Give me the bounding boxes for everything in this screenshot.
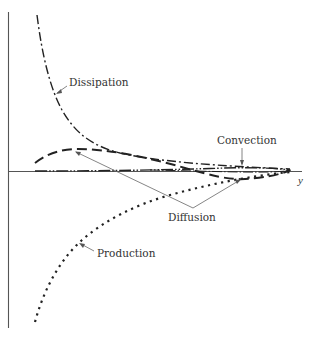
diffusion-arrowhead-right-icon xyxy=(235,180,241,185)
turbulence-energy-budget-chart: Dissipation Convection Diffusion Product… xyxy=(0,0,315,340)
production-arrowhead-icon xyxy=(79,243,85,248)
convection-label: Convection xyxy=(217,134,277,146)
diffusion-curve xyxy=(35,149,290,179)
convection-arrowhead-icon xyxy=(240,160,244,166)
production-label: Production xyxy=(97,247,156,259)
production-curve xyxy=(35,172,290,322)
diffusion-label: Diffusion xyxy=(168,211,216,223)
diffusion-arrowhead-left-icon xyxy=(75,152,81,157)
x-axis-label: y xyxy=(297,174,303,186)
dissipation-arrowhead-icon xyxy=(56,89,62,94)
dissipation-label: Dissipation xyxy=(69,76,129,88)
